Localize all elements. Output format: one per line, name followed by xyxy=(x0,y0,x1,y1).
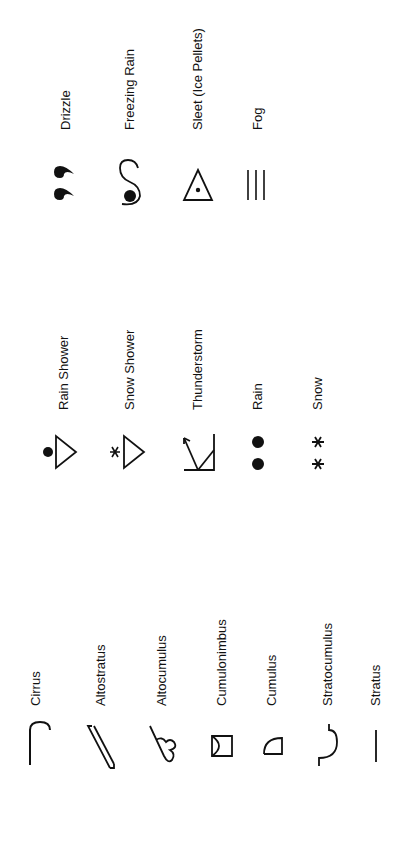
cumulus-icon xyxy=(252,720,292,770)
fog-icon xyxy=(236,160,276,210)
snow-shower-icon xyxy=(108,430,148,480)
precip-label-thunderstorm: Thunderstorm xyxy=(190,329,206,410)
stratus-icon xyxy=(356,720,396,770)
cloud-label-stratus: Stratus xyxy=(368,665,384,706)
precip-label-snow-shower: Snow Shower xyxy=(122,330,138,410)
altocumulus-icon xyxy=(140,720,180,770)
cloud-label-altocumulus: Altocumulus xyxy=(154,635,170,706)
cumulonimbus-icon xyxy=(200,720,240,770)
stratocumulus-icon xyxy=(305,720,345,770)
precip-label-rain-shower: Rain Shower xyxy=(56,336,72,410)
freezing-rain-icon xyxy=(110,160,150,210)
altostratus-icon xyxy=(82,720,122,770)
other-label-fog: Fog xyxy=(250,108,266,130)
drizzle-icon xyxy=(46,160,86,210)
cloud-label-cirrus: Cirrus xyxy=(28,671,44,706)
precip-label-rain: Rain xyxy=(250,383,266,410)
precip-label-snow: Snow xyxy=(310,377,326,410)
rain-icon xyxy=(240,430,280,480)
cloud-label-cumulus: Cumulus xyxy=(264,655,280,706)
cirrus-icon xyxy=(20,720,60,770)
rain-shower-icon xyxy=(42,430,82,480)
cloud-label-stratocumulus: Stratocumulus xyxy=(320,623,336,706)
sleet-icon xyxy=(178,160,218,210)
cloud-label-cumulonimbus: Cumulonimbus xyxy=(214,619,230,706)
weather-symbols-diagram: Cirrus Altostratus Altocumulus Cumulonim… xyxy=(0,0,404,842)
other-label-drizzle: Drizzle xyxy=(58,90,74,130)
other-label-freezing-rain: Freezing Rain xyxy=(122,49,138,130)
cloud-label-altostratus: Altostratus xyxy=(93,645,109,706)
other-label-sleet: Sleet (Ice Pellets) xyxy=(190,28,206,130)
snow-icon xyxy=(300,430,340,480)
thunderstorm-icon xyxy=(178,430,218,480)
